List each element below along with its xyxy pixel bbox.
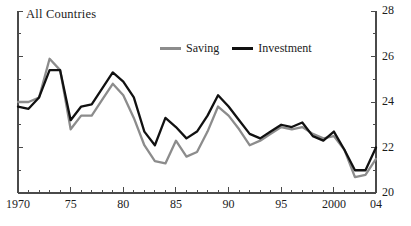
- chart-figure: All Countries Saving Investment 20222426…: [0, 0, 411, 226]
- x-tick-label-1995: 95: [275, 197, 287, 212]
- x-tick-label-1990: 90: [223, 197, 235, 212]
- y-tick-label-24: 24: [382, 94, 394, 109]
- x-tick-label-1970: 1970: [6, 197, 30, 212]
- y-tick-label-20: 20: [382, 185, 394, 200]
- series-line-investment: [18, 70, 376, 170]
- x-tick-label-2000: 2000: [322, 197, 346, 212]
- y-tick-label-28: 28: [382, 3, 394, 18]
- plot-area: [0, 0, 411, 226]
- y-tick-label-26: 26: [382, 49, 394, 64]
- x-tick-label-1975: 75: [65, 197, 77, 212]
- x-tick-label-1985: 85: [170, 197, 182, 212]
- x-tick-label-1980: 80: [117, 197, 129, 212]
- y-tick-label-22: 22: [382, 140, 394, 155]
- x-tick-label-2004: 04: [370, 197, 382, 212]
